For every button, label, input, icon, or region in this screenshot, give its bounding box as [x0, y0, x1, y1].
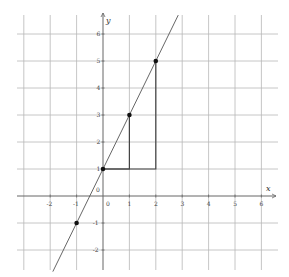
y-tick-label: 5: [96, 58, 100, 64]
data-point: [74, 221, 79, 226]
x-axis-label: x: [266, 185, 271, 193]
x-tick-label: 6: [260, 201, 264, 207]
coordinate-graph: [0, 0, 289, 277]
x-tick-label: 4: [207, 201, 211, 207]
x-tick-label: 1: [128, 201, 132, 207]
data-point: [101, 167, 106, 172]
y-tick-label: 3: [96, 112, 100, 118]
y-tick-label: -2: [93, 247, 99, 253]
line-y-equals-2x-plus-1: [53, 15, 178, 272]
y-axis-label: y: [106, 17, 111, 25]
y-tick-label: 1: [96, 166, 100, 172]
grid-lines: [17, 15, 278, 270]
x-tick-label: 5: [233, 201, 237, 207]
x-tick-label: 2: [154, 201, 158, 207]
function-line: [53, 15, 178, 272]
y-tick-label: -1: [93, 220, 99, 226]
y-tick-label: 4: [96, 85, 100, 91]
x-tick-label: 0: [106, 201, 110, 207]
data-point: [127, 113, 132, 118]
y-tick-label: 2: [96, 139, 100, 145]
axes: [17, 13, 276, 270]
x-tick-label: -2: [47, 201, 53, 207]
x-tick-label: -1: [73, 201, 79, 207]
data-point: [154, 59, 159, 64]
y-tick-label: 6: [96, 31, 100, 37]
origin-label: 0: [96, 187, 100, 193]
x-tick-label: 3: [180, 201, 184, 207]
